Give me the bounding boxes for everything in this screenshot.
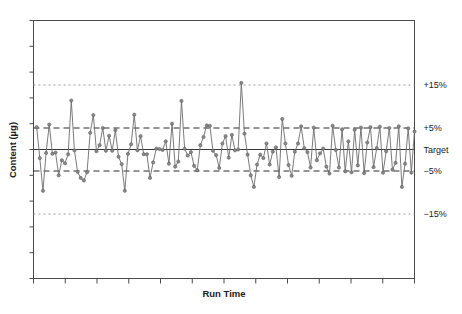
data-point [331,124,334,127]
data-point [120,163,123,166]
data-point [161,148,164,151]
data-point [337,166,340,169]
data-point [174,165,177,168]
data-point [369,126,372,129]
data-point [221,142,224,145]
data-point [126,152,129,155]
data-point [366,141,369,144]
data-point [63,162,66,165]
data-point [35,126,38,129]
data-point [356,164,359,167]
data-point [192,164,195,167]
data-point [403,162,406,165]
data-point [164,140,167,143]
x-axis-title: Run Time [202,288,245,299]
data-point [381,171,384,174]
data-point [300,125,303,128]
data-point [111,149,114,152]
data-point [271,150,274,153]
data-point [60,159,63,162]
data-point [296,142,299,145]
data-point [57,174,60,177]
data-point [274,146,277,149]
data-point [322,147,325,150]
data-point [407,127,410,130]
data-point [344,170,347,173]
data-point [117,155,120,158]
data-point [268,163,271,166]
data-point [303,147,306,150]
data-point [136,149,139,152]
data-point [189,150,192,153]
data-point [208,124,211,127]
data-point [325,165,328,168]
data-point [230,133,233,136]
data-point [315,159,318,162]
reference-label-target: Target [424,145,450,155]
data-point [41,189,44,192]
data-point [391,168,394,171]
data-point [340,128,343,131]
data-point [167,162,170,165]
data-point [101,126,104,129]
data-point [252,185,255,188]
data-point [359,126,362,129]
data-point [98,144,101,147]
data-point [334,148,337,151]
data-point [54,151,57,154]
data-point [287,163,290,166]
data-point [394,161,397,164]
data-point [215,153,218,156]
data-point [265,142,268,145]
data-point [70,99,73,102]
reference-label-plus-fifteen: +15% [424,80,447,90]
data-point [262,157,265,160]
chart-canvas: +15%+5%Target−5%−15% Run Time Content (µ… [0,0,462,314]
data-point [186,154,189,157]
data-point [130,143,133,146]
chart-background [0,0,462,314]
data-point [240,81,243,84]
data-point [76,170,79,173]
data-point [224,135,227,138]
data-point [375,147,378,150]
data-point [237,148,240,151]
data-point [155,147,158,150]
reference-label-minus-five: −5% [424,166,442,176]
data-point [312,126,315,129]
data-point [293,150,296,153]
data-point [246,153,249,156]
data-point [284,142,287,145]
y-axis-title: Content (µg) [7,122,18,178]
data-point [243,132,246,135]
data-point [183,147,186,150]
data-point [38,157,41,160]
data-point [205,124,208,127]
data-point [196,169,199,172]
data-point [51,152,54,155]
data-point [400,185,403,188]
data-point [306,150,309,153]
data-point [350,171,353,174]
data-point [82,179,85,182]
data-point [139,135,142,138]
data-point [177,160,180,163]
data-point [328,172,331,175]
data-point [218,166,221,169]
data-point [410,171,413,174]
content-vs-runtime-chart: +15%+5%Target−5%−15% Run Time Content (µ… [0,0,462,314]
reference-label-minus-fifteen: −15% [424,209,447,219]
data-point [145,153,148,156]
data-point [353,128,356,131]
data-point [318,152,321,155]
data-point [48,123,51,126]
data-point [385,150,388,153]
data-point [249,174,252,177]
data-point [114,129,117,132]
data-point [152,161,155,164]
data-point [148,176,151,179]
data-point [281,117,284,120]
data-point [133,113,136,116]
data-point [255,163,258,166]
data-point [85,171,88,174]
